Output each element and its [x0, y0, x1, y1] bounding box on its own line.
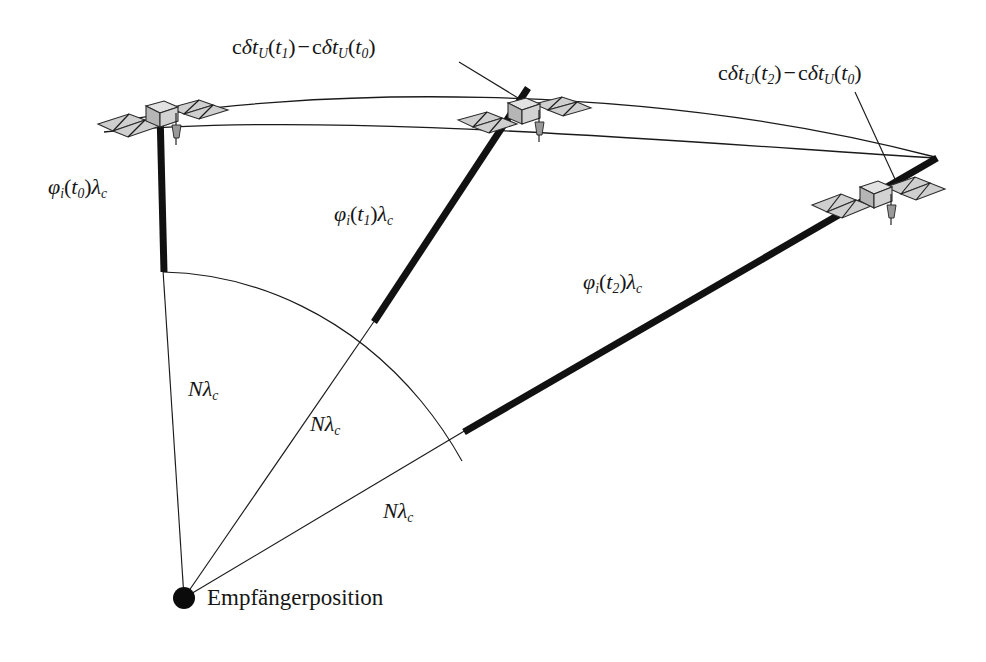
label-close-paren2: ) — [368, 34, 375, 59]
label-sub-U2: U — [338, 46, 348, 61]
label-sub-c: c — [101, 186, 107, 201]
label-clock-offset-t1: cδtU(t1)−cδtU(t0) — [232, 36, 376, 60]
label-lambda: λ — [92, 174, 102, 199]
sight-line-t2 — [184, 430, 466, 598]
label-phi: φ — [48, 174, 60, 199]
label-lambda: λ — [398, 498, 408, 523]
label-sub-c: c — [407, 510, 413, 525]
label-ambiguity-t1: Nλc — [310, 413, 340, 437]
label-phi: φ — [583, 269, 595, 294]
label-c: c — [232, 34, 242, 59]
label-sub-c: c — [212, 388, 218, 403]
leader-line-t2 — [855, 92, 900, 190]
satellite-bus-t2 — [860, 181, 892, 208]
label-close-paren: ) — [370, 201, 377, 226]
label-sub-c: c — [334, 423, 340, 438]
label-minus: − — [782, 60, 798, 85]
label-close-paren: ) — [84, 174, 91, 199]
label-sub-U2: U — [824, 72, 834, 87]
diagram-svg — [0, 0, 986, 662]
sight-line-t1 — [184, 320, 375, 598]
satellite-bus-t0 — [146, 101, 178, 127]
label-sub-U: U — [744, 72, 754, 87]
label-delta2: δ — [808, 60, 818, 85]
label-sub-c: c — [387, 213, 393, 228]
phase-segment-t0 — [160, 112, 164, 272]
label-lambda: λ — [325, 411, 335, 436]
label-delta2: δ — [322, 34, 332, 59]
label-c2: c — [312, 34, 322, 59]
label-minus: − — [296, 34, 312, 59]
satellite-t1 — [458, 97, 591, 142]
label-c2: c — [798, 60, 808, 85]
figure-canvas: cδtU(t1)−cδtU(t0) cδtU(t2)−cδtU(t0) φi(t… — [0, 0, 986, 662]
satellite-bus-t1 — [508, 98, 540, 124]
label-phi: φ — [334, 201, 346, 226]
label-close-paren2: ) — [854, 60, 861, 85]
label-N: N — [310, 411, 325, 436]
label-sub-U: U — [258, 46, 268, 61]
label-phase-t1: φi(t1)λc — [334, 203, 393, 227]
label-ambiguity-t2: Nλc — [383, 500, 413, 524]
solar-panel-right-t0 — [170, 100, 228, 119]
label-lambda: λ — [627, 269, 637, 294]
label-close-paren: ) — [288, 34, 295, 59]
label-receiver-position: Empfängerposition — [207, 586, 383, 609]
label-sub-c: c — [636, 281, 642, 296]
sight-line-t0 — [163, 270, 184, 598]
label-lambda: λ — [378, 201, 388, 226]
label-c: c — [718, 60, 728, 85]
label-phase-t0: φi(t0)λc — [48, 176, 107, 200]
label-delta: δ — [242, 34, 252, 59]
label-clock-offset-t2: cδtU(t2)−cδtU(t0) — [718, 62, 862, 86]
label-close-paren: ) — [774, 60, 781, 85]
receiver-position-dot — [173, 587, 195, 609]
label-N: N — [383, 498, 398, 523]
label-phase-t2: φi(t2)λc — [583, 271, 642, 295]
label-delta: δ — [728, 60, 738, 85]
label-ambiguity-t0: Nλc — [188, 378, 218, 402]
label-N: N — [188, 376, 203, 401]
label-lambda: λ — [203, 376, 213, 401]
label-close-paren: ) — [619, 269, 626, 294]
